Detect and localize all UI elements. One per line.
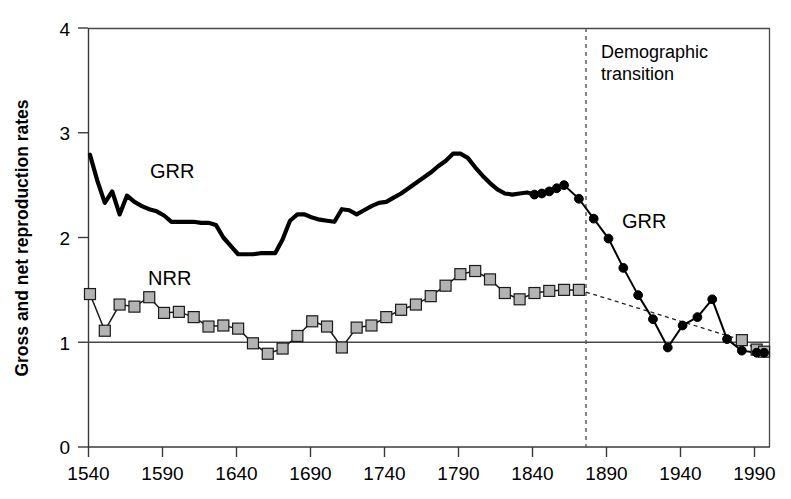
nrr-data-point [544, 285, 555, 296]
nrr-data-point [114, 299, 125, 310]
nrr-data-point [144, 292, 155, 303]
nrr-data-point [262, 348, 273, 359]
nrr-data-point [529, 288, 540, 299]
nrr-data-point [499, 288, 510, 299]
grr-data-point [560, 181, 569, 190]
grr-data-point [708, 295, 717, 304]
nrr-data-point [173, 306, 184, 317]
y-axis-tick-labels: 0 1 2 3 4 [59, 19, 70, 459]
transition-label-line2: transition [601, 64, 674, 84]
nrr-data-point [736, 335, 747, 346]
grr-data-point [634, 291, 643, 300]
nrr-label-left: NRR [148, 267, 191, 289]
nrr-data-point [322, 321, 333, 332]
grr-label-right: GRR [622, 210, 666, 232]
x-tick-label-1990: 1990 [733, 463, 775, 484]
nrr-data-point [410, 299, 421, 310]
nrr-data-point [218, 320, 229, 331]
x-tick-label-1790: 1790 [437, 463, 479, 484]
grr-data-point [678, 321, 687, 330]
reproduction-rates-chart: 0 1 2 3 4 Gross and net reproduction rat… [0, 0, 791, 499]
nrr-data-point [277, 343, 288, 354]
nrr-data-point [381, 312, 392, 323]
y-tick-label-1: 1 [59, 333, 70, 354]
nrr-data-point [514, 294, 525, 305]
nrr-data-point [396, 304, 407, 315]
x-axis-ticks [89, 447, 755, 457]
x-tick-label-1840: 1840 [511, 463, 553, 484]
nrr-data-point [307, 316, 318, 327]
x-tick-label-1540: 1540 [67, 463, 109, 484]
grr-data-point [649, 315, 658, 324]
grr-data-point [723, 335, 732, 344]
x-axis-tick-labels: 1540 1590 1640 1690 1740 1790 1840 1890 … [67, 463, 775, 484]
x-tick-label-1940: 1940 [659, 463, 701, 484]
nrr-data-point [99, 325, 110, 336]
nrr-data-point [425, 291, 436, 302]
y-axis-ticks [78, 28, 88, 447]
nrr-data-point [129, 301, 140, 312]
grr-data-point [574, 194, 583, 203]
nrr-data-point [484, 274, 495, 285]
nrr-data-point [440, 280, 451, 291]
nrr-data-point [351, 322, 362, 333]
x-tick-label-1890: 1890 [585, 463, 627, 484]
x-tick-label-1690: 1690 [289, 463, 331, 484]
y-tick-label-4: 4 [59, 19, 70, 40]
grr-label-left: GRR [150, 160, 194, 182]
nrr-data-point [247, 338, 258, 349]
nrr-data-point [470, 266, 481, 277]
nrr-data-point [233, 323, 244, 334]
nrr-data-point [292, 330, 303, 341]
y-tick-label-2: 2 [59, 228, 70, 249]
x-tick-label-1590: 1590 [141, 463, 183, 484]
nrr-data-point [84, 289, 95, 300]
nrr-data-point [336, 342, 347, 353]
grr-data-point [737, 346, 746, 355]
grr-data-point [663, 343, 672, 352]
grr-data-point [589, 214, 598, 223]
plot-frame [88, 28, 770, 448]
grr-data-point [760, 348, 769, 357]
nrr-data-point [159, 307, 170, 318]
nrr-data-point [455, 269, 466, 280]
nrr-data-point [188, 312, 199, 323]
grr-data-point [619, 263, 628, 272]
nrr-data-point [573, 284, 584, 295]
transition-label-line1: Demographic [601, 42, 708, 62]
y-tick-label-0: 0 [59, 437, 70, 458]
grr-data-point [604, 234, 613, 243]
x-tick-label-1640: 1640 [215, 463, 257, 484]
x-tick-label-1740: 1740 [363, 463, 405, 484]
figure-container: 0 1 2 3 4 Gross and net reproduction rat… [0, 0, 791, 499]
nrr-data-point [559, 284, 570, 295]
y-axis-title: Gross and net reproduction rates [12, 99, 32, 376]
nrr-data-point [366, 320, 377, 331]
y-tick-label-3: 3 [59, 123, 70, 144]
nrr-data-point [203, 321, 214, 332]
grr-data-point [693, 313, 702, 322]
grr-marker-group [530, 181, 768, 357]
